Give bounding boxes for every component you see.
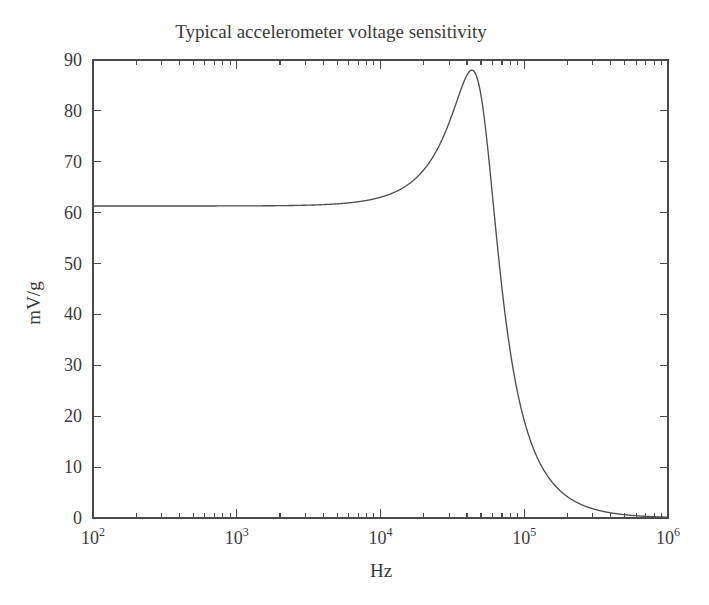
x-tick-label-10e5: 105 — [512, 525, 536, 548]
x-tick-label-10e4: 104 — [369, 525, 393, 548]
y-tick-label-60: 60 — [64, 203, 82, 223]
y-tick-label-50: 50 — [64, 254, 82, 274]
x-axis-ticks — [93, 60, 668, 518]
y-tick-label-0: 0 — [73, 508, 82, 528]
sensitivity-curve — [93, 70, 668, 517]
y-axis-tick-labels: 0102030405060708090 — [64, 50, 82, 528]
y-axis-ticks — [93, 60, 668, 518]
y-tick-label-10: 10 — [64, 457, 82, 477]
x-tick-label-10e2: 102 — [81, 525, 105, 548]
y-tick-label-20: 20 — [64, 406, 82, 426]
y-tick-label-30: 30 — [64, 355, 82, 375]
chart-title: Typical accelerometer voltage sensitivit… — [175, 21, 487, 42]
x-axis-tick-labels: 102103104105106 — [81, 525, 680, 548]
chart-figure: Typical accelerometer voltage sensitivit… — [0, 0, 709, 605]
y-tick-label-40: 40 — [64, 304, 82, 324]
x-axis-label: Hz — [370, 560, 392, 581]
y-tick-label-90: 90 — [64, 50, 82, 70]
y-tick-label-80: 80 — [64, 101, 82, 121]
y-axis-label: mV/g — [23, 281, 44, 325]
plot-frame — [93, 60, 668, 518]
x-tick-label-10e3: 103 — [225, 525, 249, 548]
accelerometer-sensitivity-chart: Typical accelerometer voltage sensitivit… — [0, 0, 709, 605]
x-tick-label-10e6: 106 — [656, 525, 680, 548]
y-tick-label-70: 70 — [64, 152, 82, 172]
